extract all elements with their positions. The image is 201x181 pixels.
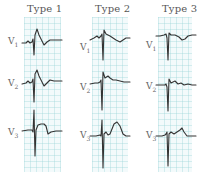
column-title-type-1: Type 1 — [27, 3, 62, 14]
lead-label-v2: V2 — [80, 82, 90, 94]
lead-label-v1: V1 — [80, 42, 90, 54]
lead-label-v2: V2 — [8, 78, 18, 90]
ecg-trace-type1-v3 — [22, 108, 64, 168]
ecg-trace-type2-v2 — [90, 68, 132, 112]
lead-label-v3: V3 — [146, 130, 156, 142]
ecg-trace-type2-v1 — [90, 28, 132, 64]
lead-label-v1: V1 — [8, 36, 18, 48]
column-title-type-3: Type 3 — [162, 3, 197, 14]
ecg-trace-type1-v1 — [22, 25, 64, 61]
lead-label-v1: V1 — [146, 40, 156, 52]
ecg-trace-type3-v1 — [156, 30, 198, 66]
column-type-1: Type 1 V1 V2 V3 — [0, 0, 66, 181]
ecg-trace-type3-v3 — [156, 118, 198, 170]
column-type-3: Type 3 V1 V2 V3 — [134, 0, 201, 181]
column-title-type-2: Type 2 — [95, 3, 130, 14]
lead-label-v3: V3 — [80, 130, 90, 142]
ecg-trace-type2-v3 — [90, 116, 132, 172]
ecg-trace-type3-v2 — [156, 71, 198, 115]
ecg-trace-type1-v2 — [22, 66, 64, 106]
lead-label-v3: V3 — [8, 127, 18, 139]
column-type-2: Type 2 V1 V2 V3 — [66, 0, 134, 181]
lead-label-v2: V2 — [146, 81, 156, 93]
